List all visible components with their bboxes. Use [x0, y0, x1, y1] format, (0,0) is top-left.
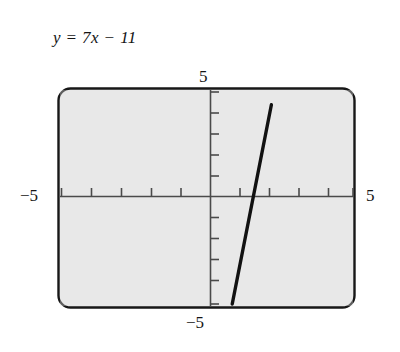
screen-texture [60, 90, 353, 306]
calculator-screen [0, 0, 400, 352]
graphing-calculator-figure: y = 7x − 11 5 −5 −5 5 [0, 0, 400, 352]
